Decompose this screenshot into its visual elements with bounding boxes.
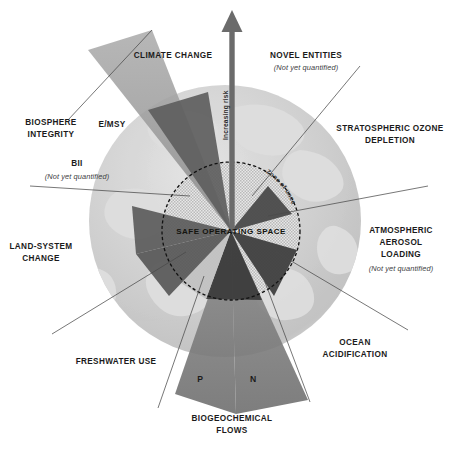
label-land-system-change: LAND-SYSTEM (10, 242, 73, 251)
label-freshwater-use: FRESHWATER USE (76, 357, 157, 366)
label-atmospheric-aerosol-loading-line3: LOADING (381, 250, 421, 259)
label-stratospheric-ozone-depletion: STRATOSPHERIC OZONE (336, 124, 444, 133)
label-atmospheric-aerosol-loading-note: (Not yet quantified) (369, 264, 434, 273)
label-biosphere-integrity: BIOSPHERE (25, 118, 77, 127)
label-atmospheric-aerosol-loading: ATMOSPHERIC (369, 226, 433, 235)
label-ocean-acidification: OCEAN (339, 338, 370, 347)
label-biosphere-integrity-line2: INTEGRITY (28, 130, 75, 139)
planetary-boundaries-figure: Increasing risk Zone of uncertainty SAFE… (0, 0, 451, 454)
label-biogeochemical-flows-p: P (197, 374, 203, 384)
label-ocean-acidification-line2: ACIDIFICATION (323, 350, 388, 359)
label-biosphere-integrity-emsy: E/MSY (98, 120, 125, 129)
label-novel-entities: NOVEL ENTITIES (270, 51, 342, 60)
label-biosphere-integrity-bii-note: (Not yet quantified) (45, 172, 110, 181)
label-stratospheric-ozone-depletion-line2: DEPLETION (365, 136, 415, 145)
label-biogeochemical-flows: BIOGEOCHEMICAL (192, 414, 273, 423)
label-biogeochemical-flows-n: N (250, 374, 256, 384)
increasing-risk-label: Increasing risk (222, 90, 230, 140)
label-atmospheric-aerosol-loading-line2: AEROSOL (380, 238, 423, 247)
label-biogeochemical-flows-line2: FLOWS (216, 426, 247, 435)
label-land-system-change-line2: CHANGE (22, 254, 60, 263)
label-biosphere-integrity-bii: BII (71, 159, 83, 168)
label-novel-entities-note: (Not yet quantified) (274, 63, 339, 72)
label-climate-change: CLIMATE CHANGE (134, 51, 213, 60)
safe-operating-space-label: SAFE OPERATING SPACE (176, 227, 286, 236)
